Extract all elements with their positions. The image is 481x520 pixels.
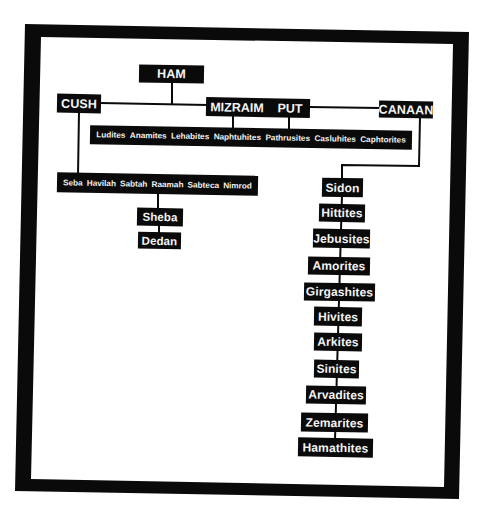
child-seba: Seba xyxy=(63,178,83,187)
node-label: Zemarites xyxy=(306,415,364,430)
child-havilah: Havilah xyxy=(87,178,116,188)
node-arvadites: Arvadites xyxy=(306,385,366,404)
node-label: Amorites xyxy=(312,259,365,274)
connector-put-canaan xyxy=(309,107,380,108)
node-label: Dedan xyxy=(142,234,178,247)
node-sheba: Sheba xyxy=(137,208,183,227)
node-dedan: Dedan xyxy=(138,232,181,250)
node-label: Girgashites xyxy=(306,284,373,299)
node-hamathites: Hamathites xyxy=(298,437,373,457)
node-hittites: Hittites xyxy=(319,204,365,223)
child-raamah: Raamah xyxy=(152,179,184,189)
child-naphtuhites: Naphtuhites xyxy=(214,132,261,142)
node-label: Sinites xyxy=(316,362,356,377)
child-anamites: Anamites xyxy=(130,131,167,141)
node-label: Jebusites xyxy=(313,231,370,246)
node-cush: CUSH xyxy=(57,94,101,114)
diagram-frame xyxy=(0,0,481,520)
node-arkites: Arkites xyxy=(314,333,362,352)
node-label: Sheba xyxy=(142,211,177,224)
child-casluhites: Casluhites xyxy=(314,134,356,144)
node-label: CANAAN xyxy=(379,102,434,117)
node-label: Sidon xyxy=(325,180,359,195)
node-label: Hivites xyxy=(318,309,358,324)
node-sinites: Sinites xyxy=(314,360,359,379)
connector-cush-mizraim xyxy=(100,103,208,105)
node-hivites: Hivites xyxy=(314,307,362,327)
child-ludites: Ludites xyxy=(96,130,125,140)
node-sidon: Sidon xyxy=(322,178,363,198)
node-jebusites: Jebusites xyxy=(313,229,370,249)
node-put-label: PUT xyxy=(277,101,302,115)
child-caphtorites: Caphtorites xyxy=(360,135,406,145)
node-canaan: CANAAN xyxy=(379,101,433,119)
cush-children-bar: Seba Havilah Sabtah Raamah Sabteca Nimro… xyxy=(57,172,258,196)
node-label: Arkites xyxy=(317,335,359,350)
child-sabteca: Sabteca xyxy=(188,180,220,190)
node-mizraim-label: MIZRAIM xyxy=(210,100,264,115)
child-sabtah: Sabtah xyxy=(120,179,147,188)
child-pathrusites: Pathrusites xyxy=(265,133,310,143)
node-mizraim-put: MIZRAIM PUT xyxy=(206,97,310,118)
node-label: HAM xyxy=(157,67,186,82)
node-amorites: Amorites xyxy=(308,256,370,275)
node-ham: HAM xyxy=(139,64,204,83)
node-label: Arvadites xyxy=(308,388,364,403)
connector-cush-children xyxy=(78,112,79,175)
child-lehabites: Lehabites xyxy=(171,132,209,142)
node-zemarites: Zemarites xyxy=(301,412,368,432)
node-label: Hamathites xyxy=(303,440,369,455)
node-label: Hittites xyxy=(321,206,363,221)
child-nimrod: Nimrod xyxy=(223,181,252,190)
node-girgashites: Girgashites xyxy=(304,282,375,301)
node-label: CUSH xyxy=(61,96,97,111)
